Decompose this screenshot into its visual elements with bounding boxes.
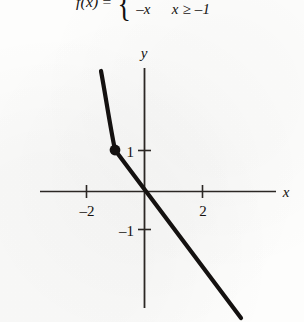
coordinate-graph: –2 2 1 –1 y x <box>0 0 304 322</box>
x-tick-label--2: –2 <box>79 203 95 219</box>
y-axis-label: y <box>139 45 148 61</box>
y-tick-label-1: 1 <box>127 144 135 160</box>
y-tick-label--1: –1 <box>118 223 134 239</box>
figure-page: f(x) = { –x x ≥ –1 <box>0 0 304 322</box>
x-tick-label-2: 2 <box>199 203 207 219</box>
x-axis-label: x <box>282 184 290 200</box>
curve-left-branch <box>101 71 115 150</box>
closed-endpoint-dot <box>110 145 121 156</box>
